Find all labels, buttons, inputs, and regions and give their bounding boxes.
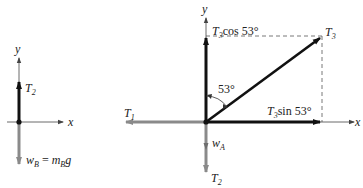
t1-label: T1	[124, 106, 135, 122]
t3-cos-label: T3cos 53°	[212, 24, 259, 40]
left-origin-dot	[16, 119, 21, 124]
free-body-diagrams: y x T2 wB = mBg y x 53° T3cos 53°	[0, 0, 363, 188]
right-y-axis-label: y	[201, 2, 208, 16]
wa-label: wA	[212, 136, 225, 152]
t3-sin-label: T3sin 53°	[267, 104, 312, 120]
right-origin-dot	[203, 119, 208, 124]
left-y-axis-label: y	[14, 42, 21, 56]
right-x-axis-label: x	[354, 115, 361, 129]
wa-small-arrowhead	[204, 143, 209, 150]
angle-arc-arrowhead-left	[207, 94, 212, 99]
t2-label: T2	[211, 171, 222, 187]
left-x-axis-label: x	[67, 115, 74, 129]
angle-label: 53°	[218, 82, 235, 96]
left-free-body-diagram: y x T2 wB = mBg	[7, 42, 74, 169]
right-free-body-diagram: y x 53° T3cos 53° T3 T3sin 53° T1 wA T2	[124, 2, 361, 187]
left-t2-label: T2	[25, 81, 36, 97]
t3-label: T3	[325, 25, 336, 41]
wb-label: wB = mBg	[26, 153, 71, 169]
